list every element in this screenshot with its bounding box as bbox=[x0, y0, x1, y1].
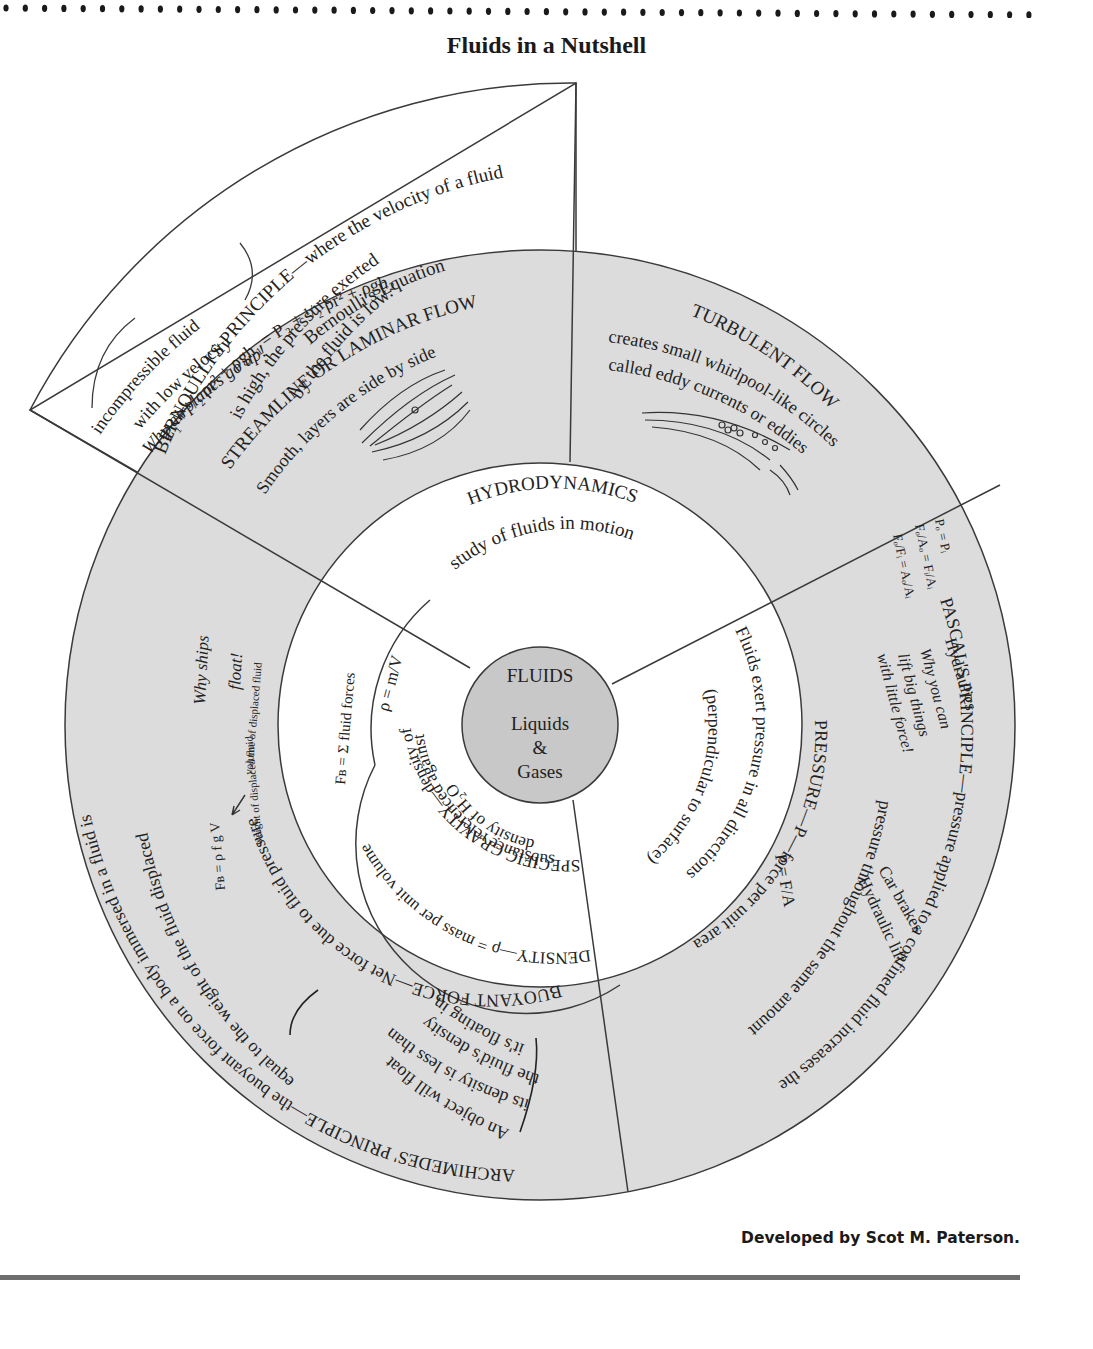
credit-line: Developed by Scot M. Paterson. bbox=[720, 1229, 1020, 1247]
core-line1: Liquids bbox=[511, 713, 569, 734]
archimedes-why2: float! bbox=[225, 652, 246, 690]
core-title: FLUIDS bbox=[507, 665, 574, 686]
core-line3: Gases bbox=[517, 761, 562, 782]
footer-rule bbox=[0, 1275, 1020, 1280]
archimedes-why1: Why ships bbox=[190, 635, 213, 706]
fluids-concept-wheel: FLUIDS Liquids & Gases BERNOULLI'S PRINC… bbox=[0, 0, 1093, 1349]
core-line2: & bbox=[533, 737, 548, 758]
